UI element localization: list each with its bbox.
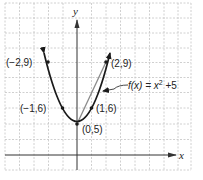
label-point-m1: (−1,6) <box>20 103 46 114</box>
point-m2 <box>46 60 50 64</box>
label-point-1: (1,6) <box>96 103 117 114</box>
label-point-2: (2,9) <box>111 58 132 69</box>
x-axis-label: x <box>178 149 184 161</box>
point-2 <box>104 60 108 64</box>
function-label: f(x) = x2 +5 <box>128 79 177 91</box>
function-label-base: f(x) = x <box>128 80 160 91</box>
point-0 <box>75 122 79 126</box>
point-m1 <box>61 106 65 110</box>
label-point-0: (0,5) <box>82 124 103 135</box>
function-label-constant: +5 <box>163 80 178 91</box>
point-1 <box>90 106 94 110</box>
annotation-leader <box>103 85 128 91</box>
y-axis-label: y <box>72 5 78 17</box>
parabola-graph: x y (−2,9) (−1,6) (0,5) (1,6) (2,9) f(x)… <box>0 0 203 180</box>
label-point-m2: (−2,9) <box>6 57 32 68</box>
